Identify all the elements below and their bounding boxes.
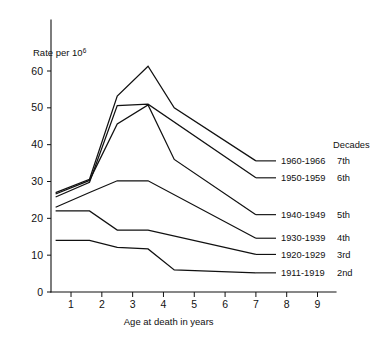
legend-ordinal-4th: 4th — [337, 233, 350, 243]
series-line-1950-1959 — [56, 104, 256, 197]
legend-header: Decades — [333, 140, 370, 150]
y-axis-title: Rate per 106 — [33, 47, 87, 59]
y-tick-label: 30 — [31, 175, 43, 187]
x-tick-label: 4 — [161, 298, 167, 310]
y-tick-label: 60 — [31, 65, 43, 77]
y-axis-title-text: Rate per 10 — [33, 47, 83, 58]
x-axis-title: Age at death in years — [124, 316, 214, 327]
x-tick-label: 2 — [99, 298, 105, 310]
x-tick-label: 1 — [68, 298, 74, 310]
legend-label-1930-1939: 1930-1939 — [281, 233, 325, 243]
legend-label-1960-1966: 1960-1966 — [281, 156, 325, 166]
x-tick-3: 3 — [130, 292, 136, 310]
series-layer — [56, 66, 256, 273]
x-tick-label: 5 — [191, 298, 197, 310]
x-tick-1: 1 — [68, 292, 74, 310]
y-tick-30: 30 — [31, 175, 51, 187]
y-tick-0: 0 — [37, 286, 51, 298]
legend-ordinal-6th: 6th — [337, 173, 350, 183]
y-tick-40: 40 — [31, 138, 51, 150]
x-tick-4: 4 — [161, 292, 167, 310]
x-tick-8: 8 — [284, 292, 290, 310]
x-tick-7: 7 — [253, 292, 259, 310]
legend-label-1940-1949: 1940-1949 — [281, 210, 325, 220]
series-line-1911-1919 — [56, 240, 256, 272]
legend-label-1911-1919: 1911-1919 — [281, 268, 325, 278]
y-tick-label: 0 — [37, 286, 43, 298]
x-axis-ticks: 123456789 — [68, 292, 320, 310]
y-tick-20: 20 — [31, 212, 51, 224]
x-tick-label: 8 — [284, 298, 290, 310]
legend-label-1950-1959: 1950-1959 — [281, 173, 325, 183]
x-tick-label: 3 — [130, 298, 136, 310]
series-line-1930-1939 — [56, 181, 256, 238]
legend-leader-lines — [256, 161, 276, 273]
legend-label-1920-1929: 1920-1929 — [281, 250, 325, 260]
y-tick-60: 60 — [31, 65, 51, 77]
x-tick-9: 9 — [315, 292, 321, 310]
y-tick-label: 10 — [31, 249, 43, 261]
legend-ordinal-7th: 7th — [337, 156, 350, 166]
x-tick-label: 6 — [222, 298, 228, 310]
x-tick-label: 9 — [315, 298, 321, 310]
legend-ordinal-3rd: 3rd — [337, 250, 350, 260]
y-tick-label: 40 — [31, 138, 43, 150]
x-tick-label: 7 — [253, 298, 259, 310]
chart-canvas: 0102030405060 123456789 Decades 1960-196… — [0, 0, 372, 338]
y-tick-label: 50 — [31, 101, 43, 113]
legend-ordinal-5th: 5th — [337, 210, 350, 220]
y-tick-10: 10 — [31, 249, 51, 261]
legend: Decades 1960-19667th1950-19596th1940-194… — [281, 140, 370, 278]
y-axis-ticks: 0102030405060 — [31, 65, 51, 298]
series-line-1920-1929 — [56, 211, 256, 254]
x-tick-2: 2 — [99, 292, 105, 310]
series-line-1960-1966 — [56, 66, 256, 192]
x-tick-5: 5 — [191, 292, 197, 310]
x-tick-6: 6 — [222, 292, 228, 310]
series-line-1940-1949 — [56, 105, 256, 215]
legend-ordinal-2nd: 2nd — [337, 268, 353, 278]
y-axis-title-exponent: 6 — [83, 47, 87, 54]
line-chart: 0102030405060 123456789 Decades 1960-196… — [0, 0, 372, 338]
y-tick-50: 50 — [31, 101, 51, 113]
y-tick-label: 20 — [31, 212, 43, 224]
